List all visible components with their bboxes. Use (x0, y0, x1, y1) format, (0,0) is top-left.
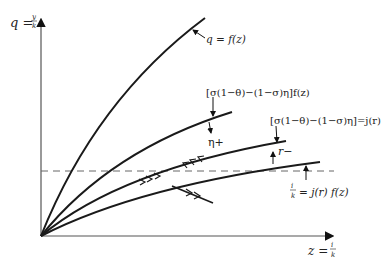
leader-sigma-j-r (276, 126, 277, 142)
svg-text:= j(r) f(z): = j(r) f(z) (299, 186, 349, 198)
y-axis-label: q = y k (10, 13, 37, 30)
label-q-f-z: q = f(z) (206, 33, 246, 45)
label-i-k-j-r-f-z: i k = j(r) f(z) (290, 182, 349, 200)
curve-sigma-j-r (41, 141, 286, 236)
svg-text:k: k (291, 192, 295, 200)
svg-text:q =: q = (10, 15, 33, 30)
leader-q-f-z (193, 30, 205, 38)
label-sigma-f-z: [σ(1−θ)−(1−σ)η]f(z) (206, 87, 310, 98)
branch-trajectory (172, 186, 213, 203)
svg-text:i: i (331, 241, 333, 249)
svg-text:i: i (291, 182, 293, 190)
label-r-minus: r− (278, 145, 292, 158)
svg-text:k: k (331, 251, 335, 259)
svg-text:k: k (32, 22, 36, 30)
eta-plus-arrow (209, 122, 211, 133)
label-eta-plus: η+ (208, 136, 224, 149)
curve-i-k-j-r-f-z (41, 162, 320, 236)
x-axis-label: z = i k (307, 241, 336, 259)
svg-text:z =: z = (307, 244, 328, 258)
steady-state-diagram: q = y k z = i k q = f(z) [σ(1−θ)−(1−σ)η]… (0, 0, 389, 270)
svg-text:y: y (31, 13, 37, 21)
label-sigma-j-r: [σ(1−θ)−(1−σ)η]=j(r) (270, 115, 381, 126)
